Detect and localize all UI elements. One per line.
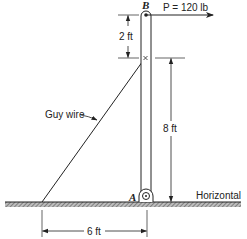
force-label: P = 120 lb — [163, 2, 209, 13]
dim-8ft-label: 8 ft — [163, 123, 177, 134]
dim-6ft-label: 6 ft — [87, 226, 101, 237]
dimension-2ft: 2 ft — [118, 15, 139, 58]
point-a-label: A — [128, 191, 136, 203]
dim-2ft-label: 2 ft — [119, 31, 133, 42]
dimension-6ft: 6 ft — [42, 210, 147, 237]
guy-wire-line — [42, 58, 145, 202]
guy-wire-label: Guy wire — [45, 109, 85, 120]
pole-outline — [141, 11, 151, 196]
ground-label: Horizontal — [196, 190, 241, 201]
dimension-8ft: 8 ft — [155, 58, 185, 202]
guy-wire-pole-diagram: Horizontal Guy wire B A P = 120 lb — [0, 0, 247, 239]
point-b-label: B — [141, 0, 149, 11]
pin-support-a: A — [128, 189, 153, 203]
pole: B — [141, 0, 151, 196]
applied-force: P = 120 lb — [146, 2, 213, 15]
force-label-text: P = 120 lb — [163, 2, 209, 13]
guy-wire: Guy wire — [42, 58, 145, 202]
ground-hatching — [5, 202, 241, 207]
support-pin-inner — [145, 195, 147, 197]
ground: Horizontal — [5, 190, 241, 207]
